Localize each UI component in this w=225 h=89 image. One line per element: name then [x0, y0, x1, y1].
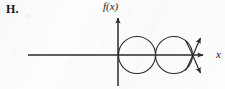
- x-axis-label: x: [216, 49, 221, 60]
- y-axis-label: f(x): [103, 1, 118, 12]
- figure-container: H. f(x) x: [0, 0, 225, 89]
- plot-svg: [0, 0, 225, 89]
